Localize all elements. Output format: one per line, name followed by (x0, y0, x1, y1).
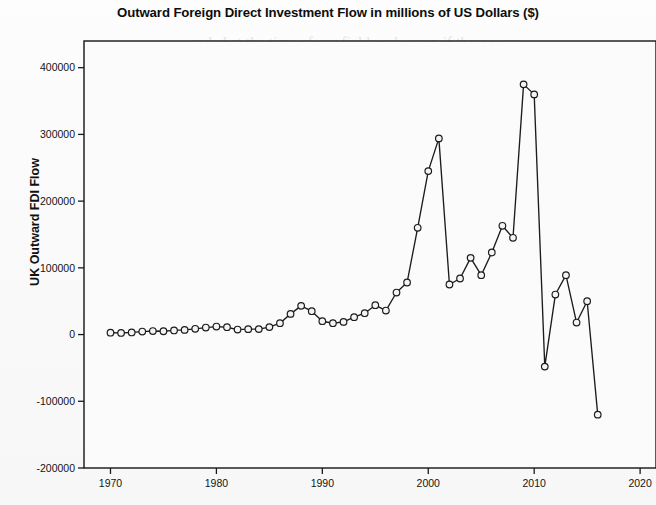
data-point-marker (298, 303, 305, 310)
data-point-marker (234, 326, 241, 333)
data-point-marker (404, 279, 411, 286)
data-point-marker (414, 225, 421, 232)
data-point-marker (573, 319, 580, 326)
data-point-marker (277, 320, 284, 327)
data-point-marker (213, 323, 220, 330)
data-point-marker (436, 135, 443, 142)
y-tick-label: 300000 (40, 128, 75, 140)
fdi-line-chart-figure: Outward Foreign Direct Investment Flow i… (0, 0, 656, 505)
data-point-marker (372, 302, 379, 309)
data-point-marker (171, 327, 178, 334)
data-point-marker (499, 223, 506, 230)
data-point-marker (330, 320, 337, 327)
data-point-marker (224, 324, 231, 331)
data-point-marker (308, 308, 315, 315)
data-point-marker (489, 249, 496, 256)
data-point-marker (245, 326, 252, 333)
y-tick-label: 200000 (40, 195, 75, 207)
data-point-marker (255, 326, 262, 333)
data-point-marker (393, 289, 400, 296)
x-tick-label: 1980 (205, 477, 229, 489)
data-point-marker (128, 329, 135, 336)
x-tick-label: 1970 (99, 477, 123, 489)
data-point-marker (552, 291, 559, 298)
data-point-marker (287, 311, 294, 318)
data-point-marker (457, 275, 464, 282)
x-tick-label: 2020 (628, 477, 652, 489)
data-point-marker (541, 363, 548, 370)
y-tick-label: 100000 (40, 262, 75, 274)
plot-canvas: -200000-1000000100000200000300000400000 … (0, 0, 656, 505)
data-point-marker (510, 235, 517, 242)
data-point-marker (340, 319, 347, 326)
data-point-marker (351, 314, 358, 321)
y-tick-label: -200000 (36, 462, 75, 474)
data-point-marker (150, 328, 157, 335)
x-axis-ticks: 197019801990200020102020 (99, 468, 652, 489)
data-point-marker (584, 298, 591, 305)
y-tick-label: 0 (69, 328, 75, 340)
data-point-marker (192, 326, 199, 333)
y-tick-label: 400000 (40, 61, 75, 73)
data-point-marker (107, 329, 114, 336)
y-tick-label: -100000 (36, 395, 75, 407)
y-axis-ticks: -200000-1000000100000200000300000400000 (36, 61, 84, 473)
data-point-marker (266, 324, 273, 331)
data-point-marker (594, 411, 601, 418)
x-tick-label: 2010 (523, 477, 547, 489)
data-point-marker (446, 281, 453, 288)
data-point-marker (467, 255, 474, 262)
data-point-marker (383, 307, 390, 314)
x-tick-label: 1990 (311, 477, 335, 489)
plot-frame (84, 41, 656, 468)
data-point-marker (478, 272, 485, 279)
data-point-marker (319, 318, 326, 325)
data-point-marker (160, 328, 167, 335)
data-point-marker (203, 324, 210, 331)
data-point-marker (531, 91, 538, 98)
data-point-marker (425, 168, 432, 175)
data-point-marker (563, 272, 570, 279)
data-point-marker (118, 330, 125, 337)
data-point-marker (361, 310, 368, 317)
data-point-marker (520, 81, 527, 88)
x-tick-label: 2000 (417, 477, 441, 489)
data-point-marker (181, 327, 188, 334)
data-point-marker (139, 328, 146, 335)
